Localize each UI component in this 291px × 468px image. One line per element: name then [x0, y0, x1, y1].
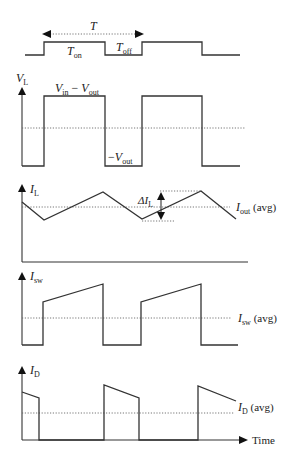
id-avg-label: ID (avg) — [237, 400, 274, 416]
buck-converter-waveform-diagram: T Ton Toff VL Vin − Vout −Vout IL ΔIL Io… — [0, 0, 291, 468]
isw-axis-arrow-icon — [18, 272, 26, 280]
vl-panel: VL Vin − Vout −Vout — [16, 71, 245, 166]
toff-label: Toff — [116, 40, 132, 56]
ripple-arrow-up-icon — [157, 192, 165, 200]
isw-avg-label: Isw (avg) — [237, 311, 277, 327]
il-axis-arrow-icon — [18, 184, 26, 192]
il-panel: IL ΔIL Iout (avg) — [18, 182, 277, 262]
vl-axis-label: VL — [16, 71, 28, 87]
period-label: T — [90, 19, 98, 33]
isw-axis-label: Isw — [29, 269, 43, 285]
vl-axis-arrow-icon — [18, 87, 26, 95]
ton-label: Ton — [67, 44, 82, 60]
vl-low-label: −Vout — [108, 150, 133, 166]
period-arrow-right-icon — [135, 30, 144, 38]
id-panel: ID ID (avg) Time — [18, 363, 275, 446]
gate-signal-panel: T Ton Toff — [25, 19, 240, 60]
period-arrow-left-icon — [42, 30, 51, 38]
id-waveform — [22, 385, 236, 440]
isw-waveform — [22, 284, 238, 345]
il-avg-label: Iout (avg) — [235, 200, 277, 216]
id-axis-label: ID — [29, 363, 40, 379]
gate-pulse-waveform — [25, 42, 240, 55]
il-axis-label: IL — [29, 182, 39, 198]
ripple-label: ΔIL — [137, 194, 153, 209]
id-axis-arrow-icon — [18, 366, 26, 374]
time-axis-arrow-icon — [239, 436, 248, 444]
il-triangle-waveform — [22, 191, 236, 220]
time-axis-label: Time — [252, 434, 275, 446]
isw-panel: Isw Isw (avg) — [18, 269, 277, 345]
vl-waveform — [22, 96, 240, 166]
vl-high-label: Vin − Vout — [55, 81, 100, 97]
ripple-arrow-down-icon — [157, 212, 165, 220]
